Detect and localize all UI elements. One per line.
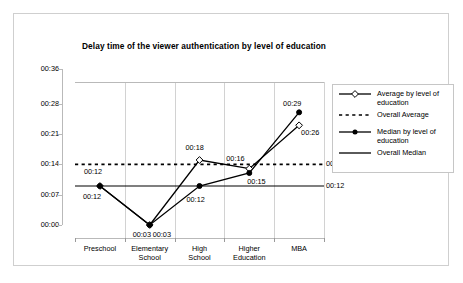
chart-legend: Average by level ofeducationOverall Aver… xyxy=(332,84,454,173)
x-axis-category-label: ElementarySchool xyxy=(125,244,175,263)
data-label-average-highereducation: 00:16 xyxy=(226,155,244,163)
y-axis-tick-mark xyxy=(58,225,62,226)
y-axis-tick-label: 00:36 xyxy=(25,65,59,73)
x-axis-category-label: MBA xyxy=(274,244,324,253)
legend-marker-solid-line-icon xyxy=(338,148,373,157)
data-label-average-mba: 00:26 xyxy=(301,129,319,137)
legend-marker-dashed-line-icon xyxy=(338,110,373,119)
x-axis-category-label: HighSchool xyxy=(175,244,225,263)
data-label-median-preschool: 00:12 xyxy=(83,193,101,201)
x-axis-tick-mark xyxy=(324,238,325,242)
x-axis-line xyxy=(75,238,324,239)
data-point-marker xyxy=(147,223,152,228)
x-axis-tick-mark xyxy=(125,238,126,242)
y-axis-line xyxy=(62,69,63,225)
data-point-marker xyxy=(97,184,102,189)
series-line xyxy=(100,112,299,225)
y-axis-tick-label: 00:00 xyxy=(25,221,59,229)
data-label-median-highschool: 00:12 xyxy=(187,196,205,204)
legend-item-label: Overall Average xyxy=(377,110,457,119)
data-label-median-mba: 00:29 xyxy=(283,100,301,108)
data-label-overall-median: 00:12 xyxy=(326,182,344,190)
x-axis-category-label: HigherEducation xyxy=(224,244,274,263)
y-axis-tick-label: 00:21 xyxy=(25,130,59,138)
plot-area: PreschoolElementarySchoolHighSchoolHighe… xyxy=(75,82,324,238)
y-axis-tick-label: 00:14 xyxy=(25,160,59,168)
legend-item-label: Average by level ofeducation xyxy=(377,89,457,107)
data-label-median-elementary: 00:03 xyxy=(153,231,171,239)
data-point-marker xyxy=(297,110,302,115)
legend-marker-open-diamond-line-icon xyxy=(338,89,373,98)
x-axis-tick-mark xyxy=(274,238,275,242)
legend-item-label: Overall Median xyxy=(377,148,457,157)
x-axis-tick-mark xyxy=(75,238,76,242)
y-axis-tick-label: 00:28 xyxy=(25,100,59,108)
data-label-median-highereducation: 00:15 xyxy=(247,178,265,186)
data-label-average-highschool: 00:18 xyxy=(186,144,204,152)
x-axis-tick-mark xyxy=(175,238,176,242)
legend-item-label: Median by level ofeducation xyxy=(377,127,457,145)
legend-marker-filled-circle-line-icon xyxy=(338,127,373,136)
y-axis-tick-label: 00:07 xyxy=(25,191,59,199)
data-point-marker xyxy=(197,184,202,189)
data-label-average-elementary: 00:03 xyxy=(133,231,151,239)
gridline xyxy=(324,82,325,238)
x-axis-tick-mark xyxy=(224,238,225,242)
data-point-marker xyxy=(247,171,252,176)
x-axis-category-label: Preschool xyxy=(75,244,125,253)
chart-frame: Delay time of the viewer authentication … xyxy=(13,13,449,266)
chart-title: Delay time of the viewer authentication … xyxy=(54,41,354,51)
data-label-average-preschool: 00:12 xyxy=(84,168,102,176)
